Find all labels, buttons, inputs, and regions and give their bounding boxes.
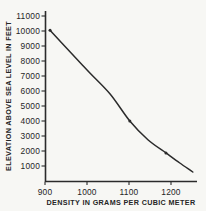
y-tick-label: 10000 (16, 26, 40, 36)
data-point-marker (164, 151, 167, 154)
data-point-marker (49, 29, 52, 32)
y-tick-label: 8000 (21, 56, 41, 66)
data-point-marker (128, 120, 131, 123)
x-tick-label: 1200 (161, 187, 181, 197)
y-tick-label: 6000 (21, 86, 41, 96)
elevation-density-curve (50, 30, 193, 172)
x-tick-label: 1100 (120, 187, 139, 197)
density-elevation-figure: 1000200030004000500060007000800090001000… (0, 0, 206, 211)
y-tick-label: 11000 (16, 11, 40, 21)
x-axis-ticks: 900100011001200 (38, 182, 181, 198)
y-tick-label: 2000 (21, 146, 41, 156)
line-chart: 1000200030004000500060007000800090001000… (0, 0, 206, 211)
x-axis-title: DENSITY IN GRAMS PER CUBIC METER (47, 198, 196, 207)
y-axis-ticks: 1000200030004000500060007000800090001000… (16, 11, 46, 171)
y-axis-title: ELEVATION ABOVE SEA LEVEL IN FEET (4, 21, 13, 171)
x-tick-label: 1000 (77, 187, 97, 197)
y-tick-label: 9000 (21, 41, 41, 51)
y-tick-label: 1000 (21, 161, 41, 171)
y-tick-label: 7000 (21, 71, 41, 81)
y-tick-label: 3000 (21, 131, 41, 141)
y-tick-label: 5000 (21, 101, 41, 111)
data-series (49, 29, 193, 172)
y-tick-label: 4000 (21, 116, 41, 126)
x-tick-label: 900 (38, 187, 53, 197)
